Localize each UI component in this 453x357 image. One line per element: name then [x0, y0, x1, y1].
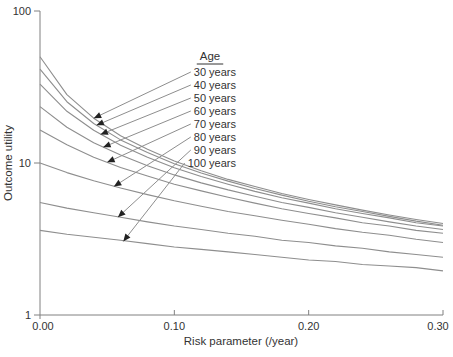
- outcome-utility-chart: 100101 0.000.100.200.30 Age 30 years40 y…: [0, 0, 453, 357]
- legend: Age 30 years40 years50 years60 years70 y…: [94, 50, 237, 241]
- curve-90-years: [40, 203, 443, 258]
- curve-50-years: [40, 84, 443, 226]
- leader-arrow-80-years: [114, 137, 191, 187]
- legend-entry-60-years: 60 years: [194, 105, 237, 117]
- legend-title: Age: [200, 50, 220, 62]
- legend-entry-40-years: 40 years: [194, 79, 237, 91]
- x-axis-ticks: 0.000.100.200.30: [32, 310, 448, 332]
- y-tick-label: 100: [13, 5, 31, 17]
- curve-80-years: [40, 163, 443, 243]
- legend-entry-70-years: 70 years: [194, 118, 237, 130]
- x-tick-label: 0.30: [427, 320, 448, 332]
- x-tick-label: 0.10: [164, 320, 185, 332]
- legend-entry-50-years: 50 years: [194, 92, 237, 104]
- y-axis-title: Outcome utility: [2, 125, 14, 201]
- y-tick-label: 1: [25, 309, 31, 321]
- x-tick-label: 0.20: [298, 320, 319, 332]
- leader-arrow-70-years: [107, 124, 191, 162]
- legend-entry-100-years: 100 years: [188, 157, 237, 169]
- axes: [40, 11, 443, 315]
- legend-entry-30-years: 30 years: [194, 66, 237, 78]
- curve-60-years: [40, 107, 443, 230]
- legend-entry-80-years: 80 years: [194, 131, 237, 143]
- y-axis-ticks: 100101: [13, 5, 40, 321]
- curve-40-years: [40, 69, 443, 225]
- x-tick-label: 0.00: [32, 320, 53, 332]
- outcome-utility-figure: 100101 0.000.100.200.30 Age 30 years40 y…: [0, 0, 453, 357]
- leader-arrow-40-years: [96, 85, 190, 125]
- y-tick-label: 10: [19, 157, 31, 169]
- curves: [40, 57, 443, 271]
- legend-entry-90-years: 90 years: [194, 144, 237, 156]
- leader-arrow-30-years: [94, 72, 191, 118]
- x-axis-title: Risk parameter (/year): [184, 335, 299, 347]
- curve-30-years: [40, 57, 443, 224]
